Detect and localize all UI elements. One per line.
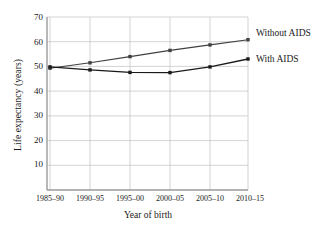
data-point-marker	[168, 49, 171, 52]
data-point-marker	[208, 43, 211, 46]
series-with-aids	[48, 57, 249, 74]
data-point-marker	[128, 71, 131, 74]
chart-plot-area	[0, 0, 321, 231]
data-point-marker	[48, 65, 51, 68]
axes	[47, 17, 248, 190]
data-point-marker	[88, 68, 91, 71]
data-point-marker	[246, 38, 249, 41]
series-without-aids-line	[50, 40, 248, 68]
gridlines	[47, 17, 248, 190]
data-point-marker	[88, 61, 91, 64]
series-with-aids-line	[50, 59, 248, 73]
data-point-marker	[168, 71, 171, 74]
data-point-marker	[208, 65, 211, 68]
chart-figure: Life expectancy (years) Year of birth 70…	[0, 0, 321, 231]
data-point-marker	[246, 57, 249, 60]
data-point-marker	[128, 55, 131, 58]
